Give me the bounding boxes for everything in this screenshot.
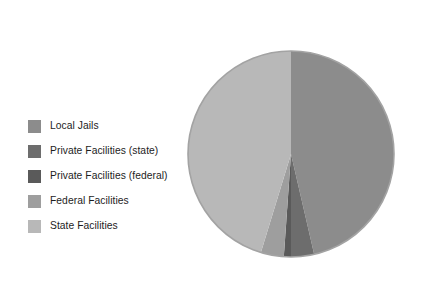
legend-item-label: Private Facilities (federal) <box>50 171 168 181</box>
pie-svg <box>187 50 395 258</box>
legend-item-private-facilities-federal: Private Facilities (federal) <box>28 164 188 189</box>
legend-swatch-icon <box>28 195 41 208</box>
legend-item-label: Local Jails <box>50 121 99 131</box>
legend-item-label: Private Facilities (state) <box>50 146 158 156</box>
legend-item-label: State Facilities <box>50 221 118 231</box>
legend-item-federal-facilities: Federal Facilities <box>28 189 188 214</box>
legend-item-label: Federal Facilities <box>50 196 129 206</box>
legend-item-private-facilities-state: Private Facilities (state) <box>28 139 188 164</box>
legend-swatch-icon <box>28 220 41 233</box>
legend-swatch-icon <box>28 170 41 183</box>
legend-item-state-facilities: State Facilities <box>28 214 188 239</box>
pie-chart-figure: Local Jails Private Facilities (state) P… <box>0 0 436 307</box>
chart-legend: Local Jails Private Facilities (state) P… <box>28 114 188 239</box>
pie-plot-area <box>187 50 395 258</box>
legend-swatch-icon <box>28 145 41 158</box>
legend-swatch-icon <box>28 120 41 133</box>
legend-item-local-jails: Local Jails <box>28 114 188 139</box>
